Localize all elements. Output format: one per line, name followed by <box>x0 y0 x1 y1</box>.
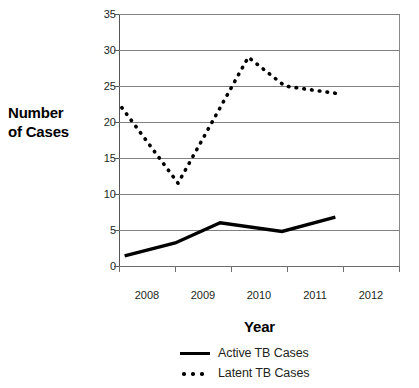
legend-swatch-dotted-line-icon <box>180 367 210 379</box>
legend-item-latent-tb-cases: Latent TB Cases <box>119 363 400 383</box>
y-tick-label-25: 25 <box>88 81 116 92</box>
x-tick-mark-0 <box>119 266 120 272</box>
y-tick-label-10: 10 <box>88 189 116 200</box>
tb-cases-line-chart: Number of Cases 35 30 25 20 15 10 5 0 <box>0 0 419 388</box>
x-tick-label-2011: 2011 <box>292 290 338 301</box>
series-svg <box>119 14 400 266</box>
y-tick-label-5: 5 <box>88 225 116 236</box>
legend-label-active-tb-cases: Active TB Cases <box>218 346 309 360</box>
x-tick-mark-2 <box>231 266 232 272</box>
plot-area: 2008 2009 2010 2011 2012 <box>119 14 400 266</box>
x-tick-mark-4 <box>343 266 344 272</box>
y-tick-label-35: 35 <box>88 9 116 20</box>
legend-item-active-tb-cases: Active TB Cases <box>119 343 400 363</box>
x-axis-title: Year <box>119 318 400 335</box>
y-tick-label-30: 30 <box>88 45 116 56</box>
series-line-active-tb-cases <box>125 217 336 256</box>
legend-label-latent-tb-cases: Latent TB Cases <box>218 366 309 380</box>
y-tick-label-15: 15 <box>88 153 116 164</box>
chart-legend: Active TB Cases Latent TB Cases <box>119 343 400 383</box>
x-tick-label-2010: 2010 <box>236 290 282 301</box>
series-line-latent-tb-cases <box>122 57 336 183</box>
x-tick-label-2008: 2008 <box>124 290 170 301</box>
y-tick-label-0: 0 <box>88 261 116 272</box>
x-tick-label-2009: 2009 <box>180 290 226 301</box>
x-tick-mark-1 <box>175 266 176 272</box>
legend-swatch-solid-line-icon <box>180 347 210 359</box>
x-tick-mark-5 <box>399 266 400 272</box>
y-tick-label-20: 20 <box>88 117 116 128</box>
x-tick-mark-3 <box>287 266 288 272</box>
x-tick-label-2012: 2012 <box>348 290 394 301</box>
x-axis-spine <box>119 266 400 267</box>
